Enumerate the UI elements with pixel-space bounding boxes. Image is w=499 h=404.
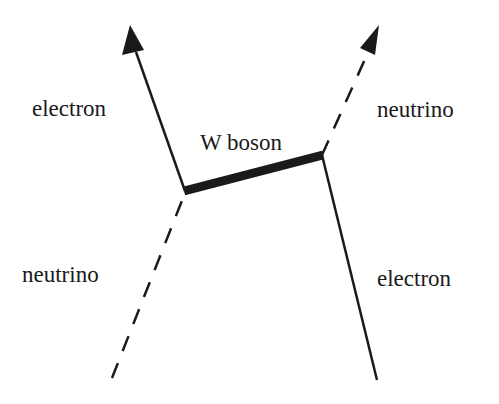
feynman-diagram: electron neutrino W boson neutrino elect… — [0, 0, 499, 404]
electron-out-line — [136, 52, 185, 191]
label-neutrino-top-right: neutrino — [377, 98, 454, 121]
label-w-boson: W boson — [200, 131, 282, 154]
electron-in-line — [322, 155, 377, 380]
label-neutrino-bottom-left: neutrino — [22, 263, 99, 286]
label-electron-top-left: electron — [32, 97, 106, 120]
w-boson-line — [184, 155, 323, 191]
diagram-canvas — [0, 0, 499, 404]
neutrino-out-line — [322, 48, 370, 155]
label-electron-bottom-right: electron — [377, 267, 451, 290]
arrowhead-icon — [360, 25, 379, 55]
arrowhead-icon — [122, 25, 144, 55]
neutrino-in-line — [112, 193, 185, 378]
